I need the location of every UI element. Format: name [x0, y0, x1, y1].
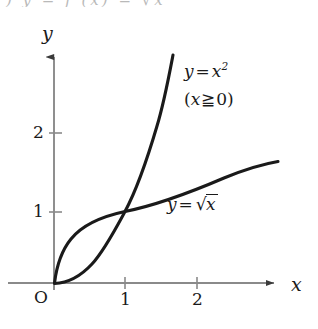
sqrt-lhs: y	[167, 194, 177, 214]
math-figure: ) y = f (x) = √x y x O 1 2 1	[0, 0, 318, 329]
x-tick-label-1: 1	[120, 291, 131, 308]
curve-label-domain: (x≧0)	[184, 91, 234, 108]
graph-canvas	[0, 0, 318, 329]
domain-variable: x	[191, 89, 201, 109]
curve-label-sqrt: y=√x	[167, 194, 218, 213]
domain-open-paren: (	[184, 89, 191, 109]
x-tick-label-2: 2	[192, 291, 203, 308]
curve-label-parabola: y=x2	[184, 63, 228, 80]
parabola-equals: =	[194, 61, 212, 81]
parabola-exponent: 2	[221, 60, 228, 72]
radicand: x	[206, 194, 218, 213]
y-tick-label-1: 1	[33, 203, 44, 220]
parabola-lhs: y	[184, 61, 194, 81]
axis-label-y: y	[42, 24, 53, 43]
parabola-base: x	[212, 61, 222, 81]
radical-expression: √x	[195, 194, 218, 213]
sqrt-equals: =	[177, 194, 195, 214]
axis-label-x: x	[291, 275, 302, 294]
domain-value: 0	[216, 89, 227, 109]
y-tick-label-2: 2	[33, 124, 44, 141]
curve-sqrt-x	[55, 162, 279, 284]
curve-x-squared	[55, 55, 174, 284]
domain-close-paren: )	[227, 89, 234, 109]
origin-label: O	[34, 289, 48, 306]
domain-relation-geq: ≧	[200, 89, 216, 109]
